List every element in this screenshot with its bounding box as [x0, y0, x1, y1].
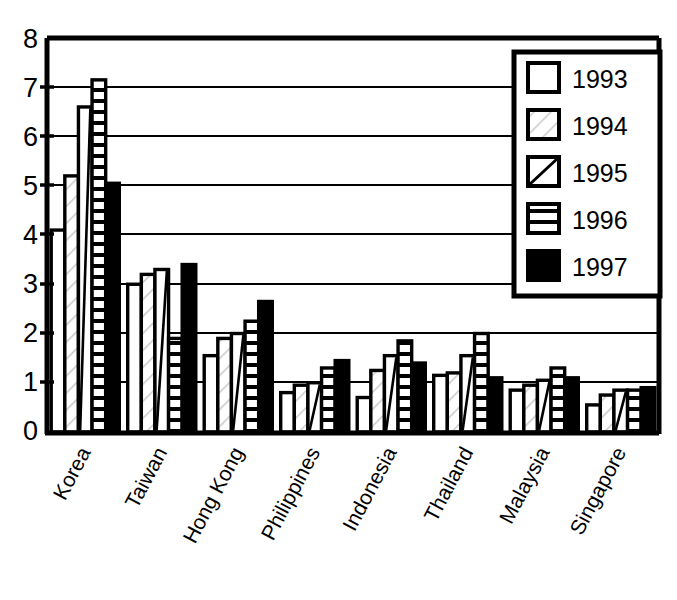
- bar-indonesia-1994: [371, 370, 385, 432]
- y-axis-tick-labels: 8 7 6 5 4 3 2 1 0: [23, 24, 38, 446]
- bar-malaysia-1993: [510, 390, 524, 432]
- bar-thailand-1997: [488, 378, 502, 432]
- bar-korea-1993: [51, 230, 65, 432]
- bar-malaysia-1997: [565, 378, 579, 432]
- legend-label-1996: 1996: [572, 206, 628, 234]
- bar-korea-1996: [92, 80, 106, 432]
- legend-label-1997: 1997: [572, 253, 628, 281]
- legend-entry-1993[interactable]: 1993: [528, 63, 628, 93]
- bar-philippines-1994: [294, 385, 308, 432]
- legend-label-1993: 1993: [572, 65, 628, 93]
- bar-singapore-1994: [600, 395, 614, 432]
- bar-indonesia-1997: [412, 363, 426, 432]
- legend: 1993 1994 1995 1996 1997: [514, 52, 660, 296]
- chart-canvas: 8 7 6 5 4 3 2 1 0: [0, 0, 677, 600]
- y-tick-1: 1: [23, 367, 38, 397]
- y-tick-4: 4: [23, 220, 38, 250]
- bar-taiwan-1997: [182, 265, 196, 432]
- y-tick-5: 5: [23, 171, 38, 201]
- bar-thailand-1996: [475, 334, 489, 433]
- swatch-solid-black-icon: [528, 251, 559, 280]
- bar-taiwan-1994: [141, 274, 155, 432]
- bar-hong-kong-1996: [245, 321, 259, 432]
- bar-taiwan-1996: [169, 338, 183, 432]
- bar-singapore-1993: [587, 405, 601, 432]
- legend-entry-1997[interactable]: 1997: [528, 251, 628, 281]
- bar-indonesia-1993: [357, 398, 371, 432]
- bar-singapore-1997: [641, 388, 655, 432]
- bar-korea-1994: [65, 176, 79, 432]
- bar-indonesia-1996: [398, 341, 412, 432]
- y-tick-0: 0: [23, 416, 38, 446]
- bar-hong-kong-1993: [204, 356, 218, 432]
- bar-hong-kong-1997: [259, 301, 273, 432]
- y-tick-8: 8: [23, 24, 38, 54]
- y-tick-2: 2: [23, 318, 38, 348]
- swatch-light-hatch-icon: [528, 110, 559, 139]
- bar-malaysia-1994: [524, 385, 538, 432]
- y-tick-7: 7: [23, 73, 38, 103]
- y-tick-6: 6: [23, 122, 38, 152]
- bar-philippines-1993: [281, 393, 295, 432]
- swatch-horizontal-icon: [528, 204, 559, 233]
- legend-label-1994: 1994: [572, 112, 628, 140]
- bar-taiwan-1993: [128, 284, 142, 432]
- bar-thailand-1993: [434, 375, 448, 432]
- y-tick-3: 3: [23, 269, 38, 299]
- swatch-white-icon: [528, 63, 559, 92]
- bar-chart-figure: 8 7 6 5 4 3 2 1 0: [0, 0, 677, 600]
- bar-malaysia-1996: [551, 368, 565, 432]
- bar-philippines-1997: [335, 361, 349, 432]
- bar-korea-1997: [106, 183, 120, 432]
- bar-hong-kong-1994: [218, 338, 232, 432]
- bar-philippines-1996: [322, 368, 336, 432]
- legend-entry-1994[interactable]: 1994: [528, 110, 628, 140]
- bar-singapore-1996: [628, 390, 642, 432]
- bar-thailand-1994: [447, 373, 461, 432]
- legend-label-1995: 1995: [572, 159, 628, 187]
- legend-entry-1995[interactable]: 1995: [528, 157, 628, 187]
- legend-entry-1996[interactable]: 1996: [528, 204, 628, 234]
